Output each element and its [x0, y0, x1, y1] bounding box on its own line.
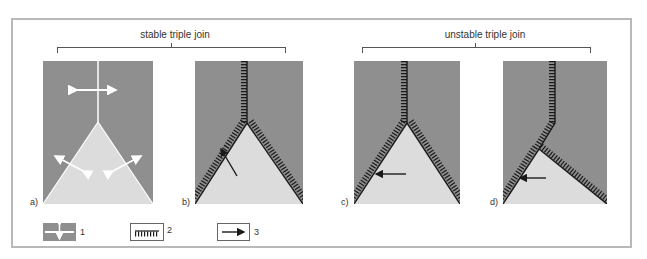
- panel-label-d: d): [490, 197, 498, 207]
- legend-icon-grain-double-arrow: [43, 223, 76, 241]
- panel-label-c: c): [341, 197, 349, 207]
- legend-icon-arrow-right: [217, 223, 250, 241]
- group-title-stable: stable triple join: [120, 29, 230, 40]
- bracket-stable: [57, 47, 286, 53]
- legend-number-2: 2: [167, 225, 172, 235]
- legend-icon-hatched-boundary: [130, 223, 164, 241]
- group-title-unstable: unstable triple join: [425, 29, 545, 40]
- bracket-unstable: [362, 47, 591, 53]
- panel-d: [503, 61, 607, 204]
- legend-number-3: 3: [254, 227, 259, 237]
- bracket-tick-stable: [171, 43, 172, 47]
- panel-b: [195, 61, 303, 204]
- panel-label-b: b): [182, 197, 190, 207]
- panel-a: [43, 61, 153, 204]
- legend-number-1: 1: [80, 227, 85, 237]
- panel-c: [354, 61, 460, 204]
- panel-label-a: a): [30, 197, 38, 207]
- bracket-tick-unstable: [475, 43, 476, 47]
